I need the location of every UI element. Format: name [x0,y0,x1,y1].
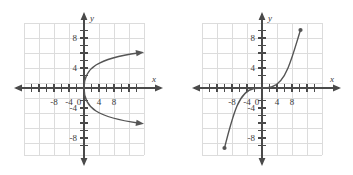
two-graph-figure: -8 -4 0 4 8 8 4 -4 -8 x y [0,0,353,175]
right-graph-panel: -8 -4 0 4 8 8 4 -4 -8 x y [176,0,353,175]
left-x-axis-label: x [151,74,156,84]
left-origin-label: 0 [77,97,82,107]
left-axes [16,14,161,164]
right-x-tick-label-neg8: -8 [228,97,236,107]
right-x-axis-label: x [329,74,334,84]
right-y-axis-label: y [267,13,272,23]
left-y-tick-label-4: 4 [73,63,78,73]
left-x-tick-label-neg8: -8 [50,97,58,107]
right-graph-svg: -8 -4 0 4 8 8 4 -4 -8 x y [176,0,353,175]
right-x-tick-label-8: 8 [290,97,295,107]
left-y-tick-label-neg4: -4 [70,103,78,113]
left-graph-svg: -8 -4 0 4 8 8 4 -4 -8 x y [0,0,177,175]
left-y-axis-label: y [89,13,94,23]
left-graph-panel: -8 -4 0 4 8 8 4 -4 -8 x y [0,0,177,175]
right-y-tick-label-neg4: -4 [248,103,256,113]
left-y-tick-label-neg8: -8 [70,133,78,143]
right-y-tick-label-8: 8 [251,33,256,43]
right-x-tick-label-4: 4 [275,97,280,107]
left-x-tick-label-4: 4 [97,97,102,107]
right-y-tick-label-4: 4 [251,63,256,73]
right-origin-label: 0 [255,97,260,107]
left-y-tick-label-8: 8 [73,33,78,43]
right-axes [194,14,339,164]
left-x-tick-label-8: 8 [112,97,117,107]
right-y-tick-label-neg8: -8 [248,133,256,143]
